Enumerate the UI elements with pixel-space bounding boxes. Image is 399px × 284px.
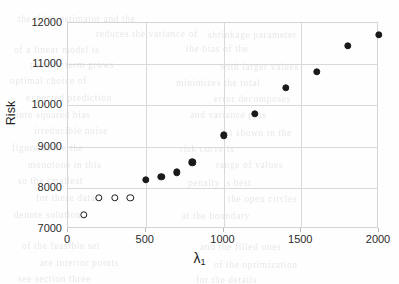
gridline-x-1500 xyxy=(301,23,302,227)
x-tick-label-500: 500 xyxy=(136,233,154,245)
gridline-x-1000 xyxy=(224,23,225,227)
x-tick-label-0: 0 xyxy=(64,233,70,245)
y-axis-title: Risk xyxy=(4,101,18,125)
gridline-x-500 xyxy=(146,23,147,227)
y-tick-label-7000: 7000 xyxy=(38,222,62,234)
y-tick-label-12000: 12000 xyxy=(31,16,62,28)
chart-screenshot: the ridge estimator and thereduces the v… xyxy=(0,0,399,284)
data-point xyxy=(126,194,133,201)
y-tick-label-8000: 8000 xyxy=(38,181,62,193)
gridline-y-8000 xyxy=(68,188,377,189)
data-point xyxy=(189,159,196,166)
gridline-y-9000 xyxy=(68,147,377,148)
data-point xyxy=(282,84,289,91)
x-axis-title-subscript: 1 xyxy=(200,257,205,267)
gridline-y-10000 xyxy=(68,105,377,106)
x-axis-title: λ1 xyxy=(0,250,399,267)
x-tick-label-2000: 2000 xyxy=(366,233,390,245)
y-tick-label-10000: 10000 xyxy=(31,98,62,110)
x-tick-label-1500: 1500 xyxy=(288,233,312,245)
y-tick-label-9000: 9000 xyxy=(38,140,62,152)
x-tick-label-1000: 1000 xyxy=(210,233,234,245)
y-axis-tick-labels: 120001100010000900080007000 xyxy=(0,0,62,284)
data-point xyxy=(80,211,87,218)
data-point xyxy=(142,176,149,183)
data-point xyxy=(313,68,320,75)
x-tick-mark-2000 xyxy=(378,228,379,232)
y-tick-label-11000: 11000 xyxy=(32,57,62,69)
data-point xyxy=(95,194,102,201)
data-point xyxy=(158,173,165,180)
data-point xyxy=(220,132,227,139)
data-point xyxy=(111,194,118,201)
bleed-text-line: for the details xyxy=(196,275,257,284)
x-tick-mark-0 xyxy=(67,228,68,232)
gridline-y-11000 xyxy=(68,64,377,65)
data-point xyxy=(344,42,351,49)
data-point xyxy=(173,168,180,175)
data-point xyxy=(375,31,382,38)
plot-area xyxy=(67,22,378,228)
data-point xyxy=(251,110,258,117)
x-tick-mark-1000 xyxy=(223,228,224,232)
x-tick-mark-1500 xyxy=(300,228,301,232)
x-tick-mark-500 xyxy=(145,228,146,232)
